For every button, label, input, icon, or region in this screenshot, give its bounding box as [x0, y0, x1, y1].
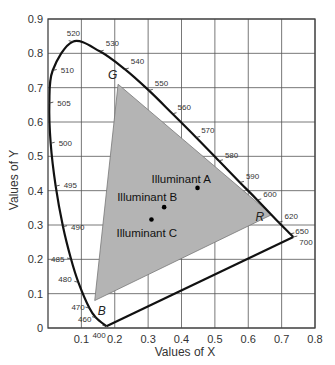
wavelength-label: 700 [299, 238, 313, 247]
wavelength-label: 460 [78, 315, 92, 324]
wavelength-label: 590 [246, 172, 260, 181]
vertex-label-b: B [98, 304, 106, 318]
wavelength-label: 470 [71, 303, 85, 312]
wavelength-label: 620 [285, 212, 299, 221]
illuminant-label: Illuminant A [152, 173, 212, 185]
illuminant-label: Illuminant B [117, 191, 177, 203]
x-axis-ticks: 0.10.20.30.40.50.60.70.8 [74, 333, 323, 345]
wavelength-label: 650 [295, 227, 309, 236]
x-tick-label: 0.8 [307, 333, 322, 345]
wavelength-label: 550 [155, 79, 169, 88]
wavelength-label: 570 [201, 126, 215, 135]
illuminant-label: Illuminant C [116, 227, 177, 239]
y-tick-label: 0.9 [28, 13, 43, 25]
wavelength-label: 580 [225, 151, 239, 160]
wavelength-label: 490 [71, 223, 85, 232]
chromaticity-diagram: 4004604704804854904955005055105205305405… [0, 0, 335, 365]
y-tick-label: 0.6 [28, 116, 43, 128]
vertex-label-r: R [256, 210, 265, 224]
wavelength-label: 400 [92, 331, 106, 340]
wavelength-label: 510 [61, 66, 75, 75]
y-tick-label: 0 [37, 322, 43, 334]
x-tick-label: 0.3 [140, 333, 155, 345]
x-tick-label: 0.5 [207, 333, 222, 345]
x-tick-label: 0.2 [107, 333, 122, 345]
y-tick-label: 0.5 [28, 150, 43, 162]
wavelength-label: 560 [177, 103, 191, 112]
wavelength-label: 530 [106, 39, 120, 48]
y-tick-label: 0.8 [28, 47, 43, 59]
y-tick-label: 0.3 [28, 219, 43, 231]
y-tick-label: 0.2 [28, 253, 43, 265]
x-tick-label: 0.1 [74, 333, 89, 345]
wavelength-label: 505 [57, 99, 71, 108]
x-axis-title: Values of X [155, 345, 215, 359]
wavelength-label: 485 [51, 255, 65, 264]
vertex-label-g: G [108, 68, 117, 82]
x-tick-label: 0.6 [241, 333, 256, 345]
illuminant-dot [149, 217, 154, 222]
wavelength-label: 480 [58, 275, 72, 284]
x-tick-label: 0.7 [274, 333, 289, 345]
illuminant-dot [195, 186, 200, 191]
wavelength-label: 495 [64, 181, 78, 190]
x-tick-label: 0.4 [174, 333, 189, 345]
y-tick-label: 0.1 [28, 288, 43, 300]
wavelength-label: 500 [59, 139, 73, 148]
illuminant-dot [162, 205, 167, 210]
y-tick-label: 0.4 [28, 185, 43, 197]
wavelength-label: 520 [67, 29, 81, 38]
y-axis-ticks: 00.10.20.30.40.50.60.70.80.9 [28, 13, 43, 334]
wavelength-label: 540 [131, 57, 145, 66]
y-tick-label: 0.7 [28, 82, 43, 94]
wavelength-label: 600 [263, 190, 277, 199]
y-axis-title: Values of Y [7, 150, 21, 210]
